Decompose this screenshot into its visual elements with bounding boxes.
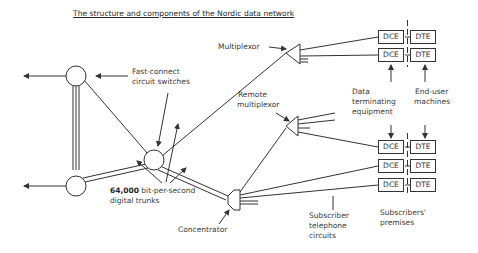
- diagram-title: The structure and components of the Nord…: [73, 9, 294, 18]
- label-data-terminating-2: terminating: [352, 97, 396, 107]
- dce-box: DCE: [378, 178, 404, 192]
- label-premises-2: premises: [380, 218, 414, 228]
- label-end-user-2: machines: [414, 97, 450, 107]
- label-trunks-1: 64,000 bit-per-second: [110, 186, 195, 196]
- dte-box: DTE: [410, 48, 436, 62]
- label-subscriber-circuits-1: Subscriber: [309, 211, 349, 221]
- label-data-terminating-3: equipment: [352, 107, 393, 117]
- dce-box: DCE: [378, 159, 404, 173]
- label-fast-connect-1: Fast-connect: [132, 67, 180, 77]
- label-fast-connect-2: circuit switches: [132, 77, 190, 87]
- label-subscriber-circuits-3: circuits: [309, 231, 336, 241]
- label-trunks-rate: 64,000: [110, 186, 139, 195]
- label-remote-mux-2: multiplexor: [237, 100, 279, 110]
- dce-box: DCE: [378, 48, 404, 62]
- dte-box: DTE: [410, 178, 436, 192]
- label-concentrator: Concentrator: [178, 225, 227, 235]
- label-trunks-unit: bit-per-second: [141, 186, 195, 195]
- dce-box: DCE: [378, 140, 404, 154]
- label-trunks-3: digital trunks: [110, 196, 159, 206]
- label-data-terminating-1: Data: [352, 87, 370, 97]
- label-remote-mux-1: Remote: [238, 90, 267, 100]
- dte-box: DTE: [410, 30, 436, 44]
- dte-box: DTE: [410, 159, 436, 173]
- label-premises-1: Subscribers': [380, 208, 426, 218]
- dce-box: DCE: [378, 30, 404, 44]
- label-subscriber-circuits-2: telephone: [309, 221, 347, 231]
- label-end-user-1: End-user: [415, 87, 448, 97]
- dte-box: DTE: [410, 140, 436, 154]
- label-multiplexor: Multiplexor: [218, 42, 260, 52]
